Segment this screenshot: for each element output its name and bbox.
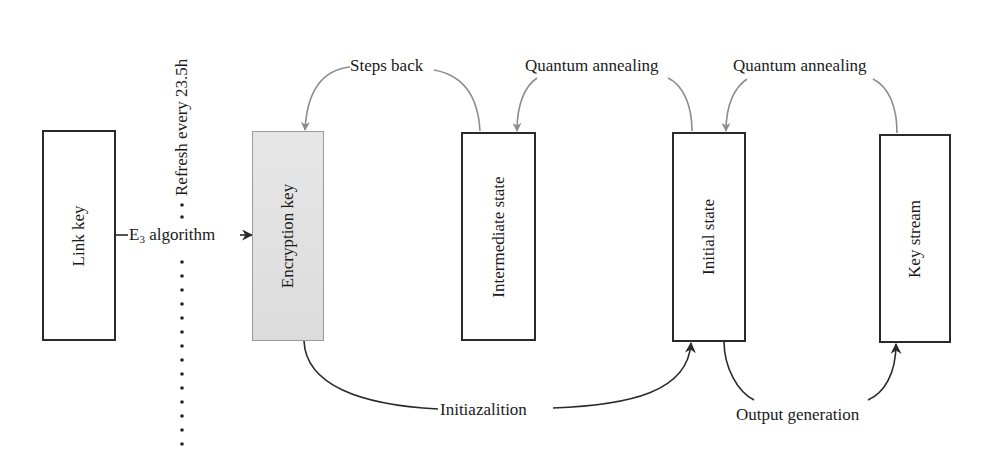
intermediate-state-label: Intermediate state <box>489 176 509 297</box>
quantum-annealing-label-2: Quantum annealing <box>733 57 867 74</box>
initial-state-label: Initial state <box>699 199 719 275</box>
encryption-key-box: Encryption key <box>252 131 324 341</box>
initial-state-box: Initial state <box>672 132 746 342</box>
steps-back-label: Steps back <box>350 57 423 74</box>
quantum-annealing-label-1: Quantum annealing <box>525 57 659 74</box>
output-generation-label: Output generation <box>736 406 859 423</box>
steps-back-arrow <box>305 67 480 131</box>
key-stream-box: Key stream <box>879 134 951 343</box>
key-generation-diagram: Link key Encryption key Intermediate sta… <box>0 0 999 465</box>
initialization-label: Initiazalition <box>440 401 527 418</box>
link-key-box: Link key <box>42 130 116 341</box>
refresh-label: Refresh every 23.5h <box>173 59 190 196</box>
quantum-annealing-arrow-2 <box>726 79 897 133</box>
e3-algorithm-label: E3 algorithm <box>129 226 215 245</box>
initialization-arrow <box>304 341 691 409</box>
link-key-label: Link key <box>69 205 89 266</box>
encryption-key-label: Encryption key <box>278 184 298 288</box>
intermediate-state-box: Intermediate state <box>461 132 536 341</box>
output-generation-arrow <box>724 341 896 400</box>
key-stream-label: Key stream <box>905 200 925 278</box>
quantum-annealing-arrow-1 <box>517 78 692 131</box>
